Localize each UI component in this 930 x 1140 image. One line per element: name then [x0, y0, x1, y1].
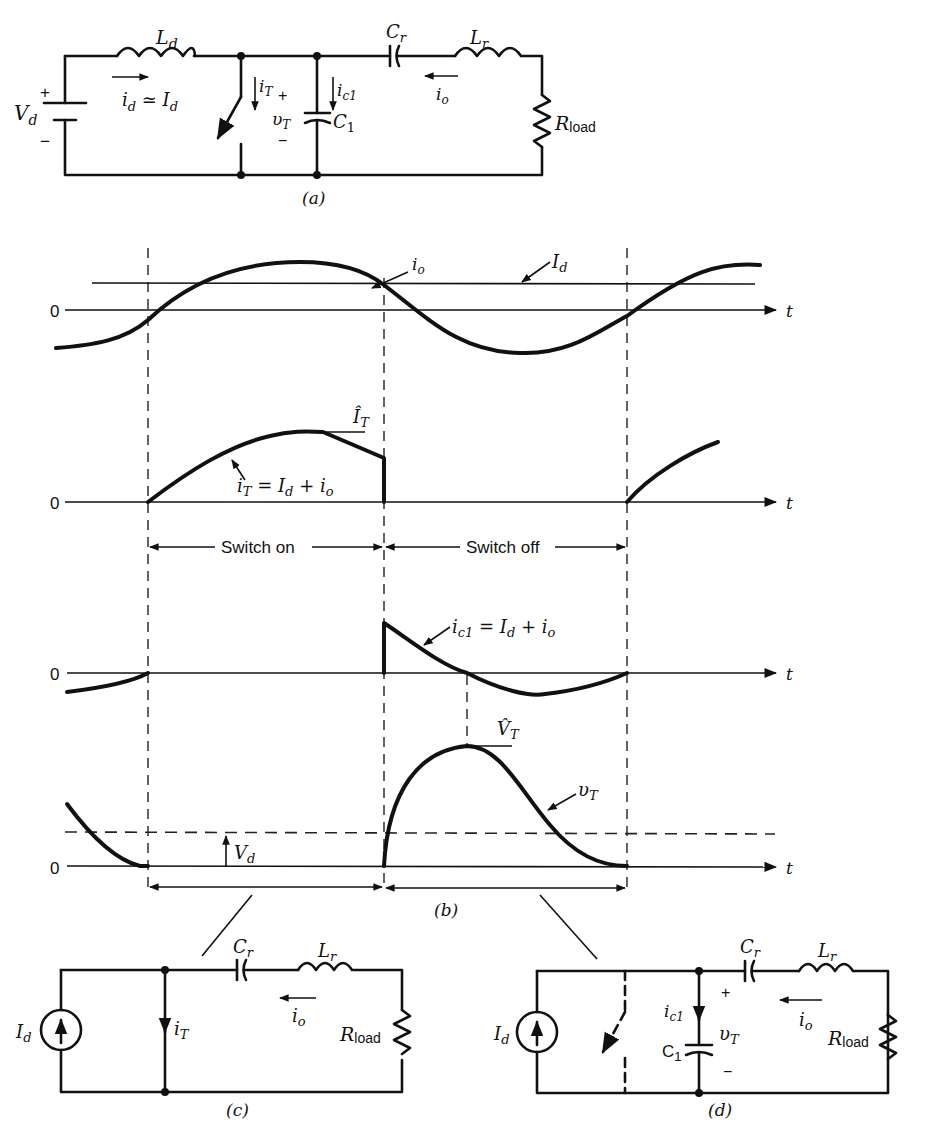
wire [65, 120, 542, 175]
resonant-converter-figure: Vd + − Ld id ≃ Id iT + − υT ic1 C1 Cr Lr… [0, 0, 930, 1140]
C1-label: C1 [662, 1042, 682, 1064]
circuit-a: Vd + − Ld id ≃ Id iT + − υT ic1 C1 Cr Lr… [14, 21, 596, 208]
iT-waveform-next [627, 442, 718, 502]
leader-line-d [540, 895, 597, 959]
caption-d: (d) [708, 1100, 732, 1120]
resistor-Rload [534, 95, 550, 147]
plus-sign: + [40, 83, 50, 102]
Id-wave-label: Id [551, 251, 567, 275]
node-dot [313, 171, 321, 179]
Vd-label: Vd [14, 101, 37, 128]
node-dot [695, 1089, 703, 1097]
Rload-label: Rload [339, 1023, 381, 1046]
Lr-label: Lr [317, 940, 337, 964]
Cr-label: Cr [740, 936, 761, 960]
vT-time-axis [67, 866, 776, 867]
wire [61, 1050, 402, 1092]
zero-label: 0 [50, 494, 59, 513]
vT-waveform-prev [67, 804, 148, 866]
ic1-waveform-prev [67, 673, 148, 692]
C1-label: C1 [333, 111, 355, 135]
switch-on-label: Switch on [221, 538, 295, 557]
Id-level-line [92, 283, 755, 284]
Vd-wave-label: Vd [234, 842, 255, 866]
resistor-Rload [394, 1010, 410, 1054]
inductor-Lr [799, 964, 888, 1015]
vT-label: υT [719, 1023, 740, 1047]
Id-label: Id [15, 1021, 31, 1045]
Id-pointer [522, 262, 550, 282]
vT-peak-label: V̂T [497, 718, 520, 742]
minus-sign: − [723, 1063, 732, 1080]
switch-open-blade [603, 1012, 625, 1052]
caption-c: (c) [226, 1100, 249, 1120]
vT-waveform [384, 746, 627, 866]
circuit-d: Id ic1 C1 υT + − Cr Lr io Rload (d) [493, 936, 896, 1120]
inductor-Lr [298, 963, 402, 1010]
ic1-equation: ic1 = Id + io [452, 616, 556, 640]
zero-label: 0 [50, 859, 59, 878]
node-dot [695, 967, 703, 975]
minus-sign: − [278, 132, 287, 149]
t-label: t [786, 493, 793, 513]
Lr-label: Lr [817, 940, 837, 964]
minus-sign: − [40, 132, 50, 151]
switch-blade [218, 97, 241, 138]
inductor-Lr [455, 48, 542, 95]
inductor-Ld [117, 48, 195, 56]
t-label: t [786, 664, 793, 684]
Vd-level-dashed [65, 832, 775, 834]
caption-a: (a) [302, 188, 325, 208]
circuit-c: Id iT Cr Lr io Rload (c) [15, 936, 410, 1120]
switch-off-label: Switch off [466, 538, 540, 557]
caption-b: (b) [434, 900, 458, 920]
node-dot [237, 52, 245, 60]
t-label: t [786, 858, 793, 878]
vT-wave-label: υT [578, 779, 599, 803]
io-label: io [292, 1005, 306, 1029]
io-waveform [56, 262, 760, 353]
Ld-label: Ld [155, 26, 178, 52]
ic1-label: ic1 [337, 80, 357, 103]
Id-label: Id [493, 1023, 509, 1047]
zero-label: 0 [50, 302, 59, 321]
node-dot [313, 52, 321, 60]
iT-peak-label: ÎT [352, 405, 370, 430]
iT-label: iT [174, 1018, 190, 1042]
iT-label: iT [259, 76, 273, 99]
waveforms-b: 0 t io Id 0 t ÎT iT = Id + io Switch on … [50, 248, 793, 959]
Lr-label: Lr [469, 27, 489, 51]
Rload-label: Rload [827, 1027, 869, 1050]
io-label: io [436, 84, 449, 107]
vT-pointer [548, 794, 576, 810]
plus-sign: + [721, 984, 730, 1001]
Cr-label: Cr [386, 21, 407, 45]
ic1-pointer [424, 627, 450, 645]
t-label: t [786, 301, 793, 321]
vT-label: υT [272, 109, 291, 132]
id-label: id ≃ Id [122, 89, 178, 114]
ic1-label: ic1 [664, 1001, 684, 1024]
node-dot [237, 171, 245, 179]
zero-label: 0 [50, 665, 59, 684]
Rload-label: Rload [554, 112, 596, 135]
node-dot [161, 966, 169, 974]
io-wave-label: io [412, 254, 425, 277]
io-label: io [799, 1009, 813, 1033]
node-dot [161, 1088, 169, 1096]
Cr-label: Cr [233, 936, 254, 960]
iT-equation: iT = Id + io [237, 475, 334, 499]
plus-sign: + [278, 87, 287, 104]
